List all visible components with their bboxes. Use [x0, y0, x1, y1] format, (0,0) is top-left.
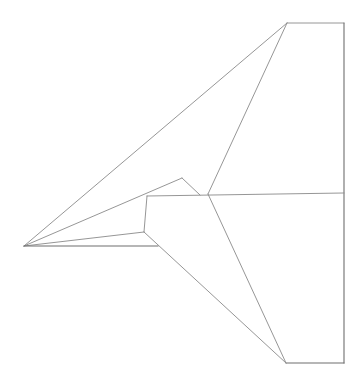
peak-to-crease-line	[182, 178, 200, 195]
paper-airplane-diagram	[0, 0, 363, 383]
airplane-outline	[24, 23, 344, 363]
top-wing-leading-edge-line	[24, 23, 287, 246]
body-corner-to-wing-bottom-line	[144, 232, 286, 363]
nose-to-peak-line	[24, 178, 182, 246]
body-front-edge-line	[144, 196, 147, 232]
center-crease-line	[147, 193, 344, 196]
top-wing-fold-line	[208, 23, 287, 194]
bottom-wing-fold-line	[208, 194, 286, 363]
nose-to-body-corner-line	[24, 232, 144, 246]
